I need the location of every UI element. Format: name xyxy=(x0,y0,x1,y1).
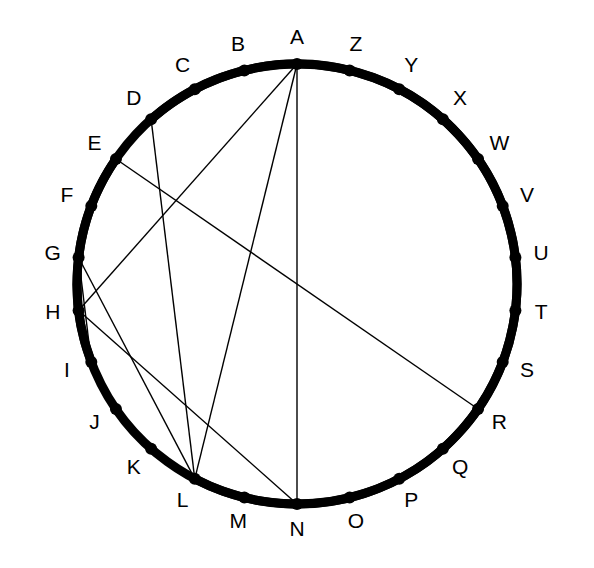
vertex-dot-d xyxy=(145,113,157,125)
vertex-label-n: N xyxy=(289,517,304,540)
vertex-label-u: U xyxy=(534,241,549,264)
vertex-dot-q xyxy=(437,443,449,455)
vertex-label-a: A xyxy=(290,25,304,48)
vertex-label-j: J xyxy=(89,410,100,433)
vertex-dot-m xyxy=(238,492,250,504)
circle-chord-diagram: ABCDEFGHIJKLMNOPQRSTUVWXYZ xyxy=(0,0,594,568)
vertex-label-l: L xyxy=(177,488,189,511)
vertex-label-t: T xyxy=(535,300,548,323)
vertex-label-i: I xyxy=(64,358,70,381)
vertex-dot-u xyxy=(509,251,521,263)
vertex-label-c: C xyxy=(175,53,190,76)
vertex-label-s: S xyxy=(520,358,534,381)
vertex-label-h: H xyxy=(45,300,60,323)
vertex-label-b: B xyxy=(231,32,245,55)
vertex-label-f: F xyxy=(61,183,74,206)
vertex-label-p: P xyxy=(404,488,418,511)
vertex-dot-x xyxy=(437,113,449,125)
vertex-dot-e xyxy=(110,153,122,165)
vertex-label-z: Z xyxy=(349,32,362,55)
vertex-label-w: W xyxy=(490,131,510,154)
vertex-dot-z xyxy=(344,64,356,76)
vertex-dot-j xyxy=(110,403,122,415)
vertex-dot-i xyxy=(85,356,97,368)
vertex-dot-a xyxy=(291,58,303,70)
vertex-label-r: R xyxy=(492,410,507,433)
vertex-dot-b xyxy=(238,64,250,76)
vertex-label-k: K xyxy=(127,455,141,478)
vertex-dot-k xyxy=(145,443,157,455)
chord-a-h xyxy=(79,64,297,311)
vertex-dot-t xyxy=(509,305,521,317)
vertex-label-o: O xyxy=(348,509,364,532)
vertex-dot-g xyxy=(73,251,85,263)
vertex-dot-p xyxy=(393,473,405,485)
vertex-dot-w xyxy=(472,153,484,165)
vertex-dot-v xyxy=(497,200,509,212)
chord-a-l xyxy=(195,64,297,479)
vertex-dot-o xyxy=(344,492,356,504)
vertex-dot-h xyxy=(73,305,85,317)
vertex-dot-r xyxy=(472,403,484,415)
vertex-dot-s xyxy=(497,356,509,368)
vertex-label-e: E xyxy=(88,131,102,154)
vertex-dot-f xyxy=(85,200,97,212)
vertex-label-g: G xyxy=(45,241,61,264)
vertex-dot-y xyxy=(393,83,405,95)
vertex-label-d: D xyxy=(126,86,141,109)
vertex-dot-c xyxy=(189,83,201,95)
vertex-label-m: M xyxy=(229,509,247,532)
vertex-label-v: V xyxy=(520,183,534,206)
vertex-dot-n xyxy=(291,498,303,510)
vertex-label-y: Y xyxy=(404,53,418,76)
vertex-label-x: X xyxy=(453,86,467,109)
vertex-label-q: Q xyxy=(452,455,468,478)
vertex-dot-l xyxy=(189,473,201,485)
chord-d-l xyxy=(151,119,195,478)
